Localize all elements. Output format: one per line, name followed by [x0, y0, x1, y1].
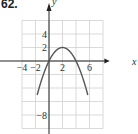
x-axis-label: x [131, 56, 137, 67]
y-tick-label: 4 [42, 29, 47, 40]
y-tick-label: −8 [36, 110, 47, 121]
y-axis-label: y [51, 0, 57, 7]
x-tick-label: −4 [17, 62, 28, 73]
parabola-graph: −4−22642−8xy [0, 0, 138, 134]
x-tick-label: −2 [30, 62, 41, 73]
tick-labels: −4−22642−8xy [17, 0, 137, 121]
grid [22, 21, 103, 129]
x-tick-label: 2 [60, 62, 65, 73]
y-tick-label: 2 [42, 42, 47, 53]
x-tick-label: 6 [87, 62, 92, 73]
